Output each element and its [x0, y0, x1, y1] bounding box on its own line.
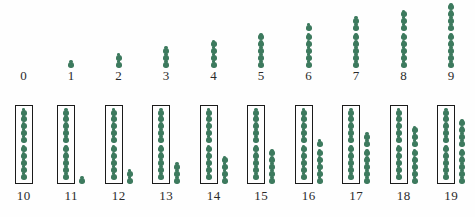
boxed-dot-pile: [63, 109, 69, 180]
counter-dot: [21, 174, 27, 180]
dot-group: [253, 146, 259, 180]
dot-group: [68, 61, 74, 68]
dot-group: [459, 120, 465, 147]
counter-dot: [269, 178, 275, 184]
loose-dot-pile: [163, 48, 169, 68]
counting-chart: 0123456789 10111213141516171819: [0, 0, 475, 217]
counter-dot: [301, 137, 307, 143]
number-column-17: 17: [333, 100, 381, 217]
boxed-dot-pile: [396, 109, 402, 180]
dot-stack: [428, 100, 475, 184]
number-column-19: 19: [428, 100, 475, 217]
number-label: 17: [333, 188, 381, 204]
boxed-dot-pile: [21, 109, 27, 180]
dot-group: [443, 109, 449, 143]
counter-dot: [111, 174, 117, 180]
counter-dot: [396, 174, 402, 180]
dot-group: [396, 146, 402, 180]
counter-dot: [211, 62, 217, 68]
dot-group: [79, 177, 85, 184]
number-column-0: 0: [0, 0, 48, 92]
number-label: 2: [95, 68, 143, 84]
dot-group: [211, 41, 217, 68]
counter-dot: [79, 178, 85, 184]
dot-group: [317, 140, 323, 147]
dot-group: [317, 150, 323, 184]
dot-stack: [190, 0, 238, 68]
number-label: 11: [48, 188, 96, 204]
number-label: 5: [238, 68, 286, 84]
dot-stack: [0, 0, 48, 68]
number-column-13: 13: [143, 100, 191, 217]
dot-group: [443, 146, 449, 180]
counter-dot: [459, 141, 465, 147]
loose-dot-pile: [68, 61, 74, 68]
dot-group: [158, 109, 164, 143]
loose-dot-pile: [459, 120, 465, 184]
counter-dot: [174, 178, 180, 184]
dot-group: [174, 164, 180, 184]
dot-group: [353, 34, 359, 68]
dot-stack: [143, 100, 191, 184]
dot-group: [63, 109, 69, 143]
counter-dot: [364, 141, 370, 147]
counter-dot: [116, 62, 122, 68]
dot-group: [111, 109, 117, 143]
number-column-18: 18: [380, 100, 428, 217]
boxed-dot-pile: [348, 109, 354, 180]
number-column-16: 16: [285, 100, 333, 217]
dot-group: [63, 146, 69, 180]
number-column-7: 7: [333, 0, 381, 92]
dot-group: [158, 146, 164, 180]
counter-dot: [348, 137, 354, 143]
counter-dot: [111, 137, 117, 143]
ten-frame-box: [152, 105, 170, 184]
number-label: 10: [0, 188, 48, 204]
ten-frame-box: [57, 105, 75, 184]
loose-dot-pile: [412, 127, 418, 184]
dot-group: [206, 109, 212, 143]
loose-dot-pile: [211, 41, 217, 68]
counter-dot: [68, 62, 74, 68]
ten-frame-box: [200, 105, 218, 184]
dot-stack: [95, 0, 143, 68]
dot-group: [21, 146, 27, 180]
dot-stack: [48, 0, 96, 68]
ten-frame-box: [342, 105, 360, 184]
dot-group: [269, 150, 275, 184]
number-label: 8: [380, 68, 428, 84]
ones-row: 0123456789: [0, 0, 475, 92]
dot-stack: [143, 0, 191, 68]
boxed-dot-pile: [443, 109, 449, 180]
counter-dot: [63, 174, 69, 180]
loose-dot-pile: [401, 11, 407, 68]
number-column-3: 3: [143, 0, 191, 92]
counter-dot: [158, 137, 164, 143]
counter-dot: [401, 25, 407, 31]
loose-dot-pile: [174, 164, 180, 184]
dot-group: [396, 109, 402, 143]
dot-stack: [238, 100, 286, 184]
number-column-4: 4: [190, 0, 238, 92]
number-column-12: 12: [95, 100, 143, 217]
loose-dot-pile: [448, 4, 454, 68]
ten-frame-box: [437, 105, 455, 184]
counter-dot: [222, 178, 228, 184]
counter-dot: [459, 178, 465, 184]
number-label: 4: [190, 68, 238, 84]
dot-stack: [190, 100, 238, 184]
number-label: 7: [333, 68, 381, 84]
counter-dot: [163, 62, 169, 68]
boxed-dot-pile: [253, 109, 259, 180]
dot-group: [401, 11, 407, 31]
loose-dot-pile: [258, 34, 264, 68]
counter-dot: [158, 174, 164, 180]
counter-dot: [301, 174, 307, 180]
dot-stack: [238, 0, 286, 68]
number-label: 15: [238, 188, 286, 204]
number-column-6: 6: [285, 0, 333, 92]
number-label: 19: [428, 188, 475, 204]
counter-dot: [443, 174, 449, 180]
number-label: 6: [285, 68, 333, 84]
loose-dot-pile: [364, 134, 370, 184]
